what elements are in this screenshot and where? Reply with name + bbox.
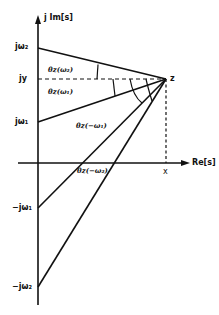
imaginary-axis-arrow-icon — [35, 15, 41, 24]
tick-jw1: jω₁ — [15, 118, 28, 126]
ray-neg-jw2 — [38, 79, 166, 287]
arc-theta-w1 — [113, 79, 115, 96]
tick-jw2: jω₂ — [15, 43, 28, 51]
point-x-label: x — [163, 168, 168, 176]
imaginary-axis-label: j Im[s] — [44, 14, 73, 22]
point-z-label: z — [170, 75, 175, 83]
arc-theta-w2 — [97, 65, 98, 80]
complex-plane-diagram — [0, 0, 219, 315]
angle-label-theta-w2: θz(ω₂) — [48, 66, 73, 73]
angle-label-theta-neg-w2: θz(−ω₂) — [77, 167, 108, 174]
ray-jw1 — [38, 79, 166, 122]
tick-jy: jy — [19, 75, 27, 83]
angle-label-theta-neg-w1: θz(−ω₁) — [76, 122, 107, 129]
ray-neg-jw1 — [38, 79, 166, 208]
ray-jw2 — [38, 48, 166, 79]
angle-label-theta-w1: θz(ω₁) — [48, 88, 73, 95]
tick-neg-jw2: −jω₂ — [12, 283, 32, 291]
tick-neg-jw1: −jω₁ — [12, 204, 32, 212]
real-axis-arrow-icon — [181, 160, 190, 166]
real-axis-label: Re[s] — [192, 159, 216, 167]
